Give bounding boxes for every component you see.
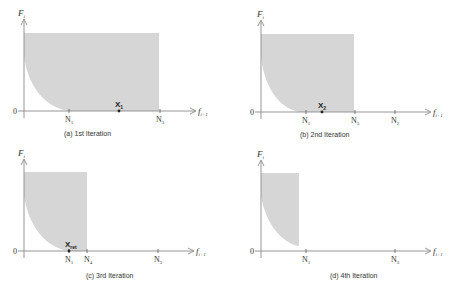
iteration-diagram: Fi fi+1 0 N1 N3 X1 (a) 1st Iteration Fi … bbox=[0, 0, 456, 290]
origin-label: 0 bbox=[250, 108, 254, 117]
y-axis-label: Fi bbox=[17, 148, 26, 159]
x-axis-label: fi+1 bbox=[196, 246, 206, 257]
point-x1 bbox=[118, 110, 121, 113]
panel-c: Fi fi+1 0 N1 N4 N3 Xret (c) 3rd Iteratio… bbox=[13, 148, 206, 280]
tick-label-n1: N1 bbox=[302, 116, 311, 126]
tick-label-n1: N1 bbox=[302, 255, 311, 265]
tick-label-n4: N4 bbox=[84, 255, 93, 265]
y-axis-label: Fi bbox=[256, 149, 265, 160]
caption-b: (b) 2nd Iteration bbox=[300, 131, 350, 139]
point-x2 bbox=[321, 111, 324, 114]
x-axis-label: fi+1 bbox=[433, 246, 443, 257]
caption-c: (c) 3rd Iteration bbox=[86, 272, 134, 280]
tick-label-n1: N1 bbox=[65, 115, 74, 125]
tick-label-n3: N3 bbox=[391, 255, 400, 265]
tick-label-n1: N1 bbox=[65, 255, 74, 265]
feasible-region bbox=[24, 172, 87, 251]
panel-a: Fi fi+1 0 N1 N3 X1 (a) 1st Iteration bbox=[13, 8, 208, 138]
tick-label-n3: N3 bbox=[154, 255, 163, 265]
tick-label-n2: N2 bbox=[391, 116, 400, 126]
origin-label: 0 bbox=[13, 107, 17, 116]
tick-label-n3: N3 bbox=[351, 116, 360, 126]
tick-label-n3: N3 bbox=[156, 115, 165, 125]
x-axis-label: fi+1 bbox=[198, 106, 208, 117]
caption-d: (d) 4th Iteration bbox=[330, 272, 378, 280]
point-xret bbox=[68, 250, 71, 253]
feasible-region bbox=[24, 33, 159, 111]
feasible-region bbox=[261, 34, 354, 112]
y-axis-label: Fi bbox=[256, 9, 265, 20]
panel-d: Fi fi+1 0 N1 N3 (d) 4th Iteration bbox=[250, 149, 443, 280]
y-axis-label: Fi bbox=[17, 8, 26, 19]
origin-label: 0 bbox=[13, 247, 17, 256]
feasible-region bbox=[261, 173, 299, 246]
caption-a: (a) 1st Iteration bbox=[64, 130, 111, 138]
x-axis-label: fi+1 bbox=[433, 107, 443, 118]
panel-b: Fi fi+1 0 N1 N3 N2 X2 (b) 2nd Iteration bbox=[250, 9, 443, 139]
origin-label: 0 bbox=[250, 247, 254, 256]
